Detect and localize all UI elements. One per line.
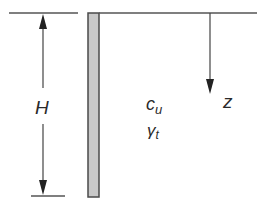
cohesion-symbol: c (146, 94, 155, 114)
retaining-wall (88, 13, 99, 197)
arrowhead-up-icon (39, 14, 47, 29)
height-label: H (35, 97, 49, 118)
cohesion-subscript: u (155, 102, 162, 117)
unit-weight-label: γt (147, 121, 160, 142)
wall-diagram: H cu γt z (0, 0, 257, 208)
arrowhead-down-icon (39, 180, 47, 195)
cohesion-label: cu (146, 94, 162, 117)
unit-weight-subscript: t (156, 128, 160, 142)
depth-arrow (206, 13, 214, 94)
arrowhead-down-icon (206, 79, 214, 94)
depth-label: z (222, 91, 233, 112)
